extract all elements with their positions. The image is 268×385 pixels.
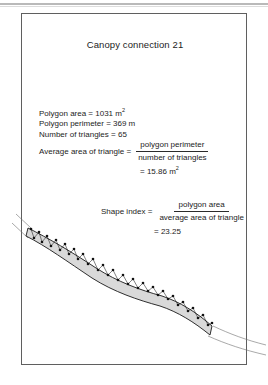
average-area-label: Average area of triangle = <box>39 147 134 156</box>
shape-index-result: = 23.25 <box>154 227 181 236</box>
average-area-result-text: = 15.86 m <box>140 167 176 176</box>
shape-index-denominator: average area of triangle <box>155 212 248 223</box>
stat-polygon-area-text: Polygon area = 1031 m <box>39 109 122 118</box>
stat-polygon-perimeter: Polygon perimeter = 369 m <box>39 119 135 129</box>
shape-index-label: Shape index = <box>101 207 155 216</box>
page-top-rule-shadow <box>0 6 268 7</box>
average-area-numerator: polygon perimeter <box>136 140 208 152</box>
average-area-equation: Average area of triangle = polygon perim… <box>39 140 211 163</box>
shape-index-equation: Shape index = polygon area average area … <box>101 200 248 223</box>
shape-index-numerator: polygon area <box>174 200 228 212</box>
statistics-block: Polygon area = 1031 m2 Polygon perimeter… <box>39 109 135 140</box>
figure-frame: Canopy connection 21 Polygon area = 1031… <box>21 13 247 365</box>
average-area-result-unit: 2 <box>176 165 179 171</box>
figure-page: Canopy connection 21 Polygon area = 1031… <box>0 0 268 385</box>
average-area-fraction: polygon perimeter number of triangles <box>134 140 210 163</box>
shape-index-fraction: polygon area average area of triangle <box>155 200 248 223</box>
page-top-rule <box>0 3 268 5</box>
stat-polygon-area-unit: 2 <box>122 107 125 113</box>
average-area-denominator: number of triangles <box>134 152 210 163</box>
figure-title: Canopy connection 21 <box>22 39 248 50</box>
average-area-result: = 15.86 m2 <box>140 167 179 176</box>
stat-polygon-area: Polygon area = 1031 m2 <box>39 109 135 119</box>
stat-number-of-triangles: Number of triangles = 65 <box>39 130 135 140</box>
